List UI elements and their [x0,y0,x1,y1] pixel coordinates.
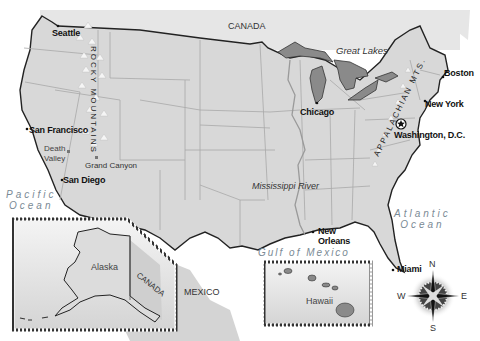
death-valley-marker [67,150,70,153]
canada-label: CANADA [228,21,266,31]
compass-east: E [461,291,467,301]
city-boston: Boston [444,68,474,78]
city-washington-dc: Washington, D.C. [394,130,465,140]
map-base [0,0,480,341]
city-san-diego: San Diego [63,175,105,185]
gulf-of-mexico-label: Gulf of Mexico [258,247,350,258]
mississippi-river-label: Mississippi River [252,181,319,191]
death-valley-label: Death Valley [44,144,65,164]
alaska-inset [13,219,176,330]
great-lakes-label: Great Lakes [336,45,388,56]
city-san-francisco: San Francisco [29,125,88,135]
city-chicago: Chicago [300,107,334,117]
alaska-label: Alaska [91,262,118,272]
city-new-york: New York [425,99,464,109]
grand-canyon-marker [95,156,98,159]
atlantic-ocean-label: Atlantic Ocean [394,208,451,230]
city-new-orleans: NewOrleans [318,226,350,246]
us-map: CANADA MEXICO CANADA Pacific Ocean Atlan… [0,0,480,341]
mexico-label: MEXICO [184,287,220,297]
city-miami: Miami [397,264,422,274]
hawaii-inset [264,262,371,325]
hawaii-label: Hawaii [306,296,333,306]
compass-west: W [397,291,406,301]
rocky-mountains-label: ROCKY MOUNTAINS [89,46,98,154]
compass-north: N [429,259,436,269]
compass-south: S [430,323,436,333]
compass-rose-icon [407,270,459,322]
grand-canyon-label: Grand Canyon [85,161,137,170]
city-seattle: Seattle [52,28,80,38]
pacific-ocean-label: Pacific Ocean [6,189,56,211]
